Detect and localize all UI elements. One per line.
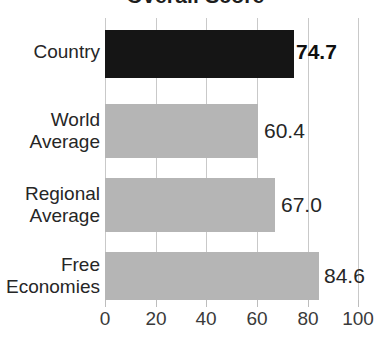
bar-value-label: 74.7 bbox=[296, 40, 337, 64]
bar-chart: Overall Score 020406080100 Country74.7Wo… bbox=[0, 0, 391, 356]
x-tick-label-100: 100 bbox=[342, 308, 374, 330]
x-tick-0 bbox=[105, 300, 106, 307]
bar-value-label: 84.6 bbox=[324, 264, 365, 288]
category-label: Free Economies bbox=[6, 254, 100, 298]
category-label: World Average bbox=[30, 109, 100, 153]
x-tick-label-40: 40 bbox=[195, 308, 216, 330]
x-tick-label-80: 80 bbox=[297, 308, 318, 330]
bar bbox=[105, 178, 275, 232]
bar bbox=[105, 252, 319, 300]
x-tick-label-60: 60 bbox=[246, 308, 267, 330]
axis-baseline bbox=[105, 300, 359, 301]
bar bbox=[105, 30, 294, 78]
bar bbox=[105, 104, 258, 158]
category-label: Country bbox=[33, 41, 100, 63]
x-tick-40 bbox=[206, 300, 207, 307]
x-tick-80 bbox=[308, 300, 309, 307]
category-label: Regional Average bbox=[25, 183, 100, 227]
gridline-100 bbox=[358, 18, 359, 300]
x-tick-label-0: 0 bbox=[100, 308, 111, 330]
x-tick-label-20: 20 bbox=[145, 308, 166, 330]
chart-title: Overall Score bbox=[0, 0, 391, 14]
x-tick-20 bbox=[156, 300, 157, 307]
x-tick-100 bbox=[358, 300, 359, 307]
bar-value-label: 67.0 bbox=[281, 193, 322, 217]
x-tick-60 bbox=[257, 300, 258, 307]
bar-value-label: 60.4 bbox=[264, 119, 305, 143]
